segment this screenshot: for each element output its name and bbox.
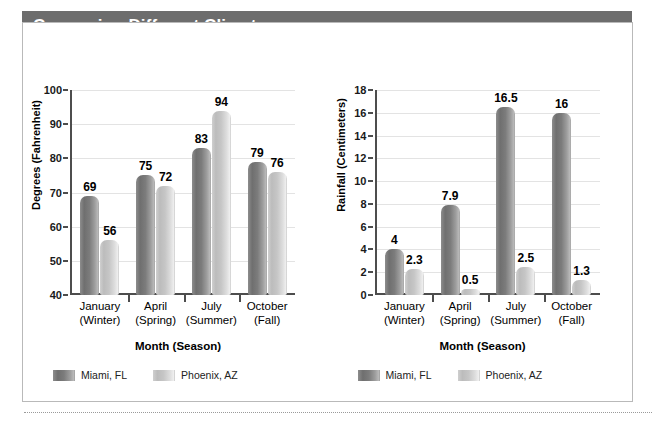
x-category-label: July(Summer) bbox=[184, 299, 240, 339]
y-tick-label: 100 bbox=[44, 84, 62, 96]
y-tick-mark bbox=[368, 157, 373, 159]
y-tick-label: 0 bbox=[360, 289, 366, 301]
bar-group: 16.52.5 bbox=[488, 90, 544, 295]
y-tick-label: 14 bbox=[354, 130, 366, 142]
y-tick-label: 6 bbox=[360, 221, 366, 233]
legend-swatch-phoenix-icon bbox=[458, 370, 480, 381]
x-category-label: April(Spring) bbox=[432, 299, 488, 339]
bar-phoenix[interactable]: 72 bbox=[156, 186, 175, 295]
bar-miami[interactable]: 7.9 bbox=[441, 205, 460, 295]
y-tick-label: 16 bbox=[354, 107, 366, 119]
x-category-season: (Winter) bbox=[377, 313, 433, 327]
bar-groups-left: 6956757283947976 bbox=[72, 90, 295, 295]
bar-value-label: 2.5 bbox=[518, 251, 535, 265]
bar-miami[interactable]: 4 bbox=[385, 249, 404, 295]
x-category-season: (Summer) bbox=[488, 313, 544, 327]
x-category-name: October bbox=[239, 299, 295, 313]
legend-item-phoenix-right: Phoenix, AZ bbox=[458, 369, 543, 381]
x-axis-title-right: Month (Season) bbox=[358, 340, 608, 352]
x-axis-title-left: Month (Season) bbox=[53, 340, 303, 352]
bar-value-label: 69 bbox=[83, 180, 96, 194]
bar-miami[interactable]: 79 bbox=[248, 162, 267, 295]
bar-phoenix[interactable]: 56 bbox=[100, 240, 119, 295]
y-tick-label: 70 bbox=[50, 187, 62, 199]
x-category-season: (Spring) bbox=[128, 313, 184, 327]
y-tick-label: 90 bbox=[50, 118, 62, 130]
x-category-name: July bbox=[184, 299, 240, 313]
x-category-label: October(Fall) bbox=[239, 299, 295, 339]
x-category-label: April(Spring) bbox=[128, 299, 184, 339]
y-tick-label: 80 bbox=[50, 152, 62, 164]
legend-swatch-miami-icon bbox=[53, 370, 75, 381]
x-axis-labels-right: January(Winter)April(Spring)July(Summer)… bbox=[377, 299, 600, 339]
bar-value-label: 1.3 bbox=[573, 264, 590, 278]
bar-miami[interactable]: 69 bbox=[80, 196, 99, 295]
legend-swatch-miami-icon bbox=[358, 370, 380, 381]
y-tick-mark bbox=[368, 135, 373, 137]
bar-value-label: 83 bbox=[195, 132, 208, 146]
x-category-label: January(Winter) bbox=[377, 299, 433, 339]
y-tick-mark bbox=[368, 226, 373, 228]
y-tick-label: 2 bbox=[360, 266, 366, 278]
x-category-label: January(Winter) bbox=[72, 299, 128, 339]
y-tick-mark bbox=[63, 89, 68, 91]
y-tick-mark bbox=[63, 226, 68, 228]
legend-item-miami-right: Miami, FL bbox=[358, 369, 432, 381]
y-tick-mark bbox=[368, 180, 373, 182]
x-category-name: April bbox=[432, 299, 488, 313]
x-category-season: (Fall) bbox=[239, 313, 295, 327]
bar-phoenix[interactable]: 1.3 bbox=[572, 280, 591, 295]
bar-miami[interactable]: 83 bbox=[192, 148, 211, 295]
bar-group: 42.3 bbox=[377, 90, 433, 295]
y-tick-mark bbox=[368, 271, 373, 273]
bar-value-label: 0.5 bbox=[462, 273, 479, 287]
bar-group: 7572 bbox=[128, 90, 184, 295]
bar-value-label: 72 bbox=[159, 170, 172, 184]
bar-value-label: 16 bbox=[555, 97, 568, 111]
y-tick-label: 40 bbox=[50, 289, 62, 301]
y-axis-labels-right: 024681012141618 bbox=[328, 90, 373, 295]
bar-miami[interactable]: 16.5 bbox=[496, 107, 515, 295]
bar-phoenix[interactable]: 2.5 bbox=[516, 267, 535, 295]
bar-value-label: 2.3 bbox=[406, 253, 423, 267]
y-tick-mark bbox=[368, 203, 373, 205]
y-tick-label: 10 bbox=[354, 175, 366, 187]
y-tick-mark bbox=[368, 294, 373, 296]
bar-phoenix[interactable]: 2.3 bbox=[405, 269, 424, 295]
bar-value-label: 4 bbox=[391, 233, 398, 247]
bar-phoenix[interactable]: 94 bbox=[212, 111, 231, 296]
bar-miami[interactable]: 75 bbox=[136, 175, 155, 295]
y-tick-label: 4 bbox=[360, 243, 366, 255]
x-category-label: July(Summer) bbox=[488, 299, 544, 339]
x-axis-labels-left: January(Winter)April(Spring)July(Summer)… bbox=[72, 299, 295, 339]
bar-value-label: 94 bbox=[215, 95, 228, 109]
y-tick-label: 12 bbox=[354, 152, 366, 164]
bar-value-label: 76 bbox=[270, 156, 283, 170]
y-tick-mark bbox=[368, 89, 373, 91]
y-tick-mark bbox=[63, 260, 68, 262]
legend-left: Miami, FL Phoenix, AZ bbox=[53, 366, 323, 384]
x-category-season: (Fall) bbox=[544, 313, 600, 327]
y-tick-mark bbox=[63, 123, 68, 125]
bar-group: 7.90.5 bbox=[432, 90, 488, 295]
y-tick-label: 50 bbox=[50, 255, 62, 267]
y-tick-label: 8 bbox=[360, 198, 366, 210]
y-tick-mark bbox=[63, 294, 68, 296]
bar-phoenix[interactable]: 76 bbox=[268, 172, 287, 295]
bar-value-label: 16.5 bbox=[494, 91, 517, 105]
legend-label-miami: Miami, FL bbox=[81, 369, 127, 381]
y-tick-label: 60 bbox=[50, 221, 62, 233]
x-category-name: January bbox=[72, 299, 128, 313]
bar-value-label: 56 bbox=[103, 224, 116, 238]
bottom-dotted-divider bbox=[24, 412, 652, 413]
y-tick-mark bbox=[63, 192, 68, 194]
bar-group: 161.3 bbox=[544, 90, 600, 295]
bar-miami[interactable]: 16 bbox=[552, 113, 571, 295]
bar-group: 6956 bbox=[72, 90, 128, 295]
legend-label-phoenix: Phoenix, AZ bbox=[486, 369, 543, 381]
chart-temperature: Degrees (Fahrenheit) 405060708090100 695… bbox=[23, 52, 328, 390]
legend-item-phoenix-left: Phoenix, AZ bbox=[153, 369, 238, 381]
legend-item-miami-left: Miami, FL bbox=[53, 369, 127, 381]
x-category-label: October(Fall) bbox=[544, 299, 600, 339]
legend-label-phoenix: Phoenix, AZ bbox=[181, 369, 238, 381]
